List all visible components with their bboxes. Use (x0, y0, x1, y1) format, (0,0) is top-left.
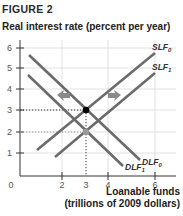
origin-label: 0 (8, 180, 13, 190)
slf1-label: SLF1 (152, 62, 172, 73)
loanable-funds-chart: 6 5 4 3 2 1 0 2 3 4 6 SL (0, 0, 183, 216)
new-equilibrium-point (83, 129, 90, 136)
y-tick-3: 3 (7, 105, 12, 115)
axes (20, 40, 176, 176)
gridlines (20, 40, 176, 176)
slf0-label: SLF0 (152, 42, 172, 53)
y-tick-labels: 6 5 4 3 2 1 (7, 43, 12, 158)
y-tick-1: 1 (7, 148, 12, 158)
y-tick-4: 4 (7, 84, 12, 94)
x-axis-title-line1: Loanable funds (64, 186, 180, 198)
initial-equilibrium-point (83, 107, 90, 114)
x-axis-title: Loanable funds (trillions of 2009 dollar… (64, 186, 180, 210)
y-tick-2: 2 (7, 127, 12, 137)
dlf0-label: DLF0 (142, 157, 163, 168)
y-tick-5: 5 (7, 63, 12, 73)
y-tick-6: 6 (7, 43, 12, 53)
x-axis-title-line2: (trillions of 2009 dollars) (64, 198, 180, 210)
